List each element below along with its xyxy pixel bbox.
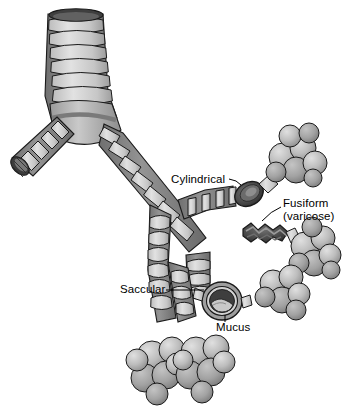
branch-cylindrical bbox=[178, 186, 236, 219]
alveolar-cluster-bottom-right bbox=[173, 335, 235, 403]
leader-fusiform bbox=[262, 207, 281, 221]
label-saccular: Saccular bbox=[120, 283, 166, 296]
fusiform-varicose-dilation bbox=[243, 223, 300, 243]
left-main-bronchus bbox=[7, 117, 74, 179]
label-mucus: Mucus bbox=[216, 321, 250, 334]
label-fusiform-line2: (varicose) bbox=[283, 210, 334, 223]
label-fusiform-line1: Fusiform bbox=[283, 197, 329, 209]
label-cylindrical: Cylindrical bbox=[171, 173, 225, 186]
alveolar-cluster-upper-right bbox=[266, 123, 327, 187]
label-fusiform-varicose: Fusiform (varicose) bbox=[283, 197, 334, 223]
bronchiectasis-illustration: Cylindrical Fusiform (varicose) Saccular… bbox=[0, 0, 343, 415]
leader-cylindrical bbox=[229, 179, 241, 185]
alveolar-cluster-mid-right bbox=[255, 265, 310, 320]
